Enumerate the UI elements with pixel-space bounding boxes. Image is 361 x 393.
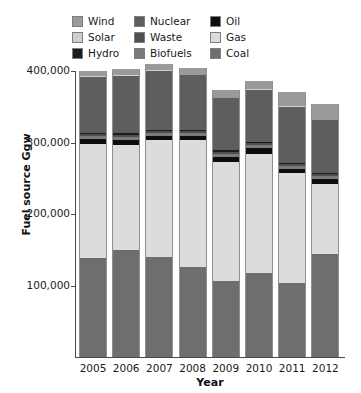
legend-label-wind: Wind [88, 16, 114, 27]
legend-label-solar: Solar [88, 32, 115, 43]
bar-2012 [311, 104, 339, 357]
legend-item-biofuels: Biofuels [134, 45, 210, 61]
y-tick-label: 400,000 [12, 65, 70, 75]
y-tick-mark [71, 143, 75, 144]
bar-2006 [112, 69, 140, 357]
y-axis-ticks: 400,000300,000200,000100,000 [0, 0, 70, 393]
bar-segment-coal [213, 281, 239, 358]
bar-2005 [79, 71, 107, 357]
bar-segment-gas [146, 140, 172, 257]
legend-swatch-waste [134, 32, 145, 43]
bar-segment-coal [80, 258, 106, 357]
legend-label-biofuels: Biofuels [150, 48, 192, 59]
bar-segment-coal [246, 273, 272, 357]
bar-segment-gas [180, 140, 206, 267]
bar-segment-wind [312, 104, 338, 120]
legend-swatch-solar [72, 32, 83, 43]
bar-segment-nuclear [213, 98, 239, 150]
bar-segment-wind [246, 81, 272, 89]
bar-2011 [278, 92, 306, 357]
bar-segment-gas [279, 173, 305, 282]
bar-segment-nuclear [246, 90, 272, 142]
bar-segment-nuclear [312, 120, 338, 173]
chart-legend: Wind Solar Hydro Nuclear Waste Biofuels … [72, 13, 287, 61]
x-tick-label-2011: 2011 [275, 362, 309, 374]
bar-2008 [179, 68, 207, 357]
legend-swatch-gas [210, 32, 221, 43]
x-tick-label-2008: 2008 [176, 362, 210, 374]
bar-segment-wind [213, 90, 239, 98]
y-tick-mark [71, 71, 75, 72]
bar-segment-coal [312, 254, 338, 357]
x-axis-title: Year [76, 376, 344, 389]
legend-swatch-nuclear [134, 16, 145, 27]
legend-item-hydro: Hydro [72, 45, 134, 61]
bar-2010 [245, 81, 273, 357]
bar-2007 [145, 64, 173, 357]
x-tick-label-2009: 2009 [209, 362, 243, 374]
bar-segment-coal [180, 267, 206, 357]
legend-swatch-coal [210, 48, 221, 59]
bar-segment-coal [146, 257, 172, 357]
y-tick-label: 100,000 [12, 280, 70, 290]
legend-item-solar: Solar [72, 29, 134, 45]
bar-segment-nuclear [113, 76, 139, 133]
bar-segment-gas [213, 162, 239, 281]
x-tick-label-2010: 2010 [242, 362, 276, 374]
bar-segment-nuclear [180, 75, 206, 129]
plot-area [76, 71, 344, 357]
bar-segment-nuclear [80, 77, 106, 133]
legend-item-wind: Wind [72, 13, 134, 29]
y-tick-mark [71, 214, 75, 215]
stacked-bar-chart: Wind Solar Hydro Nuclear Waste Biofuels … [0, 0, 361, 393]
legend-label-waste: Waste [150, 32, 182, 43]
y-tick-mark [71, 286, 75, 287]
bar-segment-gas [246, 154, 272, 273]
legend-item-coal: Coal [210, 45, 272, 61]
legend-item-nuclear: Nuclear [134, 13, 210, 29]
bar-segment-nuclear [279, 107, 305, 163]
x-tick-label-2007: 2007 [142, 362, 176, 374]
bar-segment-gas [113, 145, 139, 250]
legend-swatch-wind [72, 16, 83, 27]
legend-swatch-oil [210, 16, 221, 27]
legend-swatch-biofuels [134, 48, 145, 59]
bar-2009 [212, 90, 240, 357]
legend-item-oil: Oil [210, 13, 272, 29]
legend-label-hydro: Hydro [88, 48, 119, 59]
bar-segment-wind [279, 92, 305, 106]
legend-label-nuclear: Nuclear [150, 16, 190, 27]
legend-label-coal: Coal [226, 48, 249, 59]
bar-segment-nuclear [146, 71, 172, 130]
legend-label-oil: Oil [226, 16, 240, 27]
bar-segment-gas [80, 144, 106, 258]
legend-label-gas: Gas [226, 32, 246, 43]
y-axis-title: Fuel source Ggw [20, 115, 33, 255]
x-tick-label-2005: 2005 [76, 362, 110, 374]
legend-swatch-hydro [72, 48, 83, 59]
x-tick-label-2012: 2012 [308, 362, 342, 374]
legend-item-gas: Gas [210, 29, 272, 45]
bar-segment-coal [279, 283, 305, 357]
bar-segment-coal [113, 250, 139, 357]
x-axis-line [75, 357, 345, 358]
bar-segment-gas [312, 184, 338, 254]
x-tick-label-2006: 2006 [109, 362, 143, 374]
legend-item-waste: Waste [134, 29, 210, 45]
